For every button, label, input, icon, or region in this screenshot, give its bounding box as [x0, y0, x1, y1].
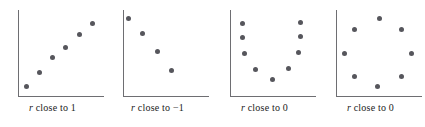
caption-text-1: close to 1: [33, 102, 76, 113]
y-axis-3: [230, 10, 231, 97]
data-point: [90, 21, 95, 26]
data-point: [377, 16, 382, 21]
plot-area-1: [18, 10, 104, 97]
data-point: [342, 51, 347, 56]
panel-caption-2: r close to −1: [105, 102, 210, 113]
data-point: [126, 16, 131, 21]
data-point: [298, 34, 303, 39]
caption-text-3: close to 0: [245, 102, 288, 113]
plot-area-3: [230, 10, 316, 97]
data-point: [77, 32, 82, 37]
caption-text-2: close to −1: [135, 102, 184, 113]
panel-caption-3: r close to 0: [212, 102, 317, 113]
y-axis-4: [336, 10, 337, 97]
x-axis-3: [230, 96, 316, 97]
correlation-scatterplot-figure: r close to 1 r close to −1 r close to 0 …: [0, 0, 425, 127]
data-point: [375, 84, 380, 89]
data-point: [242, 51, 247, 56]
data-point: [286, 66, 291, 71]
data-point: [50, 55, 55, 60]
panel-caption-1: r close to 1: [0, 102, 105, 113]
data-point: [140, 31, 145, 36]
x-axis-2: [123, 96, 209, 97]
data-point: [352, 27, 357, 32]
plot-area-4: [336, 10, 422, 97]
data-point: [37, 70, 42, 75]
data-point: [270, 77, 275, 82]
scatterplot-panel-2: r close to −1: [105, 0, 210, 127]
data-point: [409, 51, 414, 56]
data-point: [296, 50, 301, 55]
data-point: [399, 27, 404, 32]
data-point: [240, 21, 245, 26]
data-point: [253, 67, 258, 72]
data-point: [298, 20, 303, 25]
caption-text-4: close to 0: [351, 102, 394, 113]
data-point: [24, 84, 29, 89]
data-point: [155, 49, 160, 54]
plot-area-2: [123, 10, 209, 97]
data-point: [169, 68, 174, 73]
x-axis-4: [336, 96, 422, 97]
scatterplot-panel-4: r close to 0: [318, 0, 423, 127]
y-axis-2: [123, 10, 124, 97]
x-axis-1: [18, 96, 104, 97]
data-point: [63, 45, 68, 50]
y-axis-1: [18, 10, 19, 97]
scatterplot-panel-1: r close to 1: [0, 0, 105, 127]
data-point: [240, 35, 245, 40]
data-point: [352, 74, 357, 79]
scatterplot-panel-3: r close to 0: [212, 0, 317, 127]
data-point: [399, 74, 404, 79]
panel-caption-4: r close to 0: [318, 102, 423, 113]
